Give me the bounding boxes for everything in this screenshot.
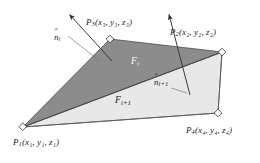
vertex-label-p2-coords: (x₂, y₂, z₂) (179, 27, 216, 37)
vertex-label-p2: P2(x₂, y₂, z₂) (170, 28, 216, 38)
normal-label-i: ˆni (54, 33, 61, 43)
vertex-label-p3-coords: (x₃, y₃, z₃) (95, 17, 132, 27)
hat-accent-icon: ˆ (155, 73, 158, 82)
vertex-label-p1: P1(x₁, y₁, z₁) (13, 138, 59, 148)
vertex-label-p4-coords: (x₄, y₄, z₄) (195, 125, 232, 135)
surface-normal-diagram: P3(x₃, y₃, z₃) P2(x₂, y₂, z₂) P1(x₁, y₁,… (0, 0, 260, 163)
face-label-i-plus-1-subscript: i+1 (121, 99, 131, 106)
vertex-label-p3: P3(x₃, y₃, z₃) (86, 18, 132, 28)
face-label-i: Fi (131, 57, 139, 67)
vertex-marker-p1 (19, 123, 27, 131)
normal-label-i-plus-1-base-group: ˆn (154, 78, 159, 87)
face-label-i-subscript: i (137, 60, 139, 67)
face-label-i-plus-1: Fi+1 (115, 96, 131, 106)
normal-label-i-plus-1-subscript: i+1 (159, 80, 169, 87)
vertex-label-p4: P4(x₄, y₄, z₄) (186, 126, 232, 136)
normal-label-i-plus-1: ˆni+1 (154, 78, 168, 88)
vertex-label-p1-coords: (x₁, y₁, z₁) (22, 137, 59, 147)
normal-i-leader-line (68, 36, 101, 62)
hat-accent-icon: ˆ (55, 28, 58, 37)
normal-label-i-base-group: ˆn (54, 33, 59, 42)
